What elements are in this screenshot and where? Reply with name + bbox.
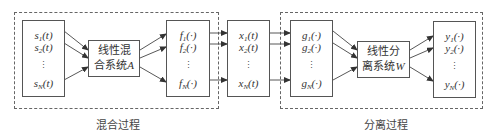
signal-xN: xN(t) [228,77,269,93]
separation-system-label-line2: 离系统W [362,59,404,74]
signal-sN: sN(t) [23,77,64,93]
vertical-ellipsis: ⋮ [23,63,64,67]
output-yN: yN(·) [434,78,475,94]
vertical-ellipsis: ⋮ [291,63,332,67]
linear-separation-system-block: 线性分 离系统W [357,41,410,78]
vertical-ellipsis: ⋮ [228,63,269,67]
source-signals-block: s1(t) s2(t) ⋮ sN(t) [22,20,65,97]
vertical-ellipsis: ⋮ [167,63,209,67]
vertical-ellipsis: ⋮ [434,64,475,68]
function-fN: fN(·) [167,77,209,93]
signal-s2: s2(t) [23,41,64,57]
mixing-system-label-line2: 合系统A [94,58,134,73]
output-y2: y2(·) [434,42,475,58]
nonlinear-g-block: g1(·) g2(·) ⋮ gN(·) [290,20,333,97]
separation-system-label-line1: 线性分 [367,45,400,59]
separation-process-caption: 分离过程 [364,116,408,132]
function-f2: f2(·) [167,41,209,57]
function-g2: g2(·) [291,41,332,57]
output-signals-block: y1(·) y2(·) ⋮ yN(·) [433,21,476,98]
function-gN: gN(·) [291,77,332,93]
observed-signals-block: x1(t) x2(t) ⋮ xN(t) [227,20,270,97]
linear-mixing-system-block: 线性混 合系统A [88,40,140,77]
nonlinear-f-block: f1(·) f2(·) ⋮ fN(·) [166,20,210,97]
signal-x2: x2(t) [228,41,269,57]
mixing-system-label-line1: 线性混 [98,44,131,58]
mixing-process-caption: 混合过程 [96,116,140,132]
